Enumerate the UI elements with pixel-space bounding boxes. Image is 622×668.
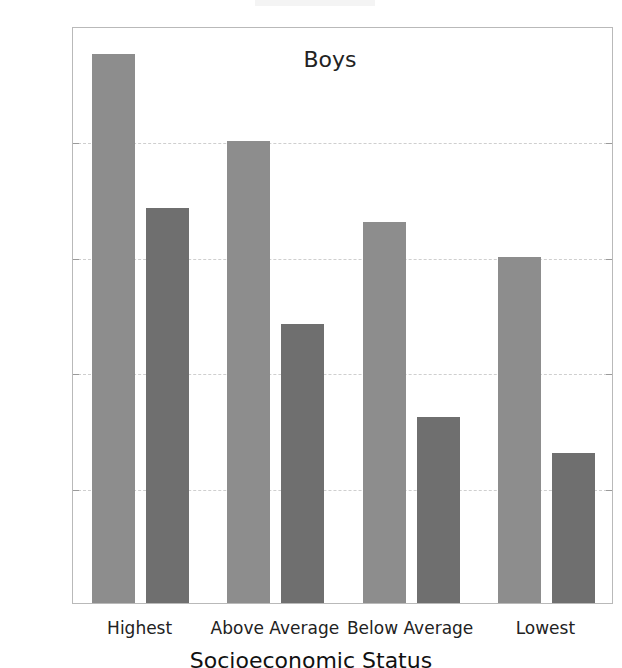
bar-highest-series-1 <box>92 54 135 603</box>
bar-below-average-series-2 <box>417 417 460 603</box>
y-tick-mark <box>73 490 79 491</box>
x-tick-label: Lowest <box>516 618 575 638</box>
y-tick-mark <box>606 143 612 144</box>
y-tick-mark <box>73 143 79 144</box>
bar-chart-figure: Mean IQ Socioeconomic Status Boys 708090… <box>0 0 622 668</box>
y-tick-mark <box>73 374 79 375</box>
x-tick-label: Above Average <box>211 618 340 638</box>
plot-area <box>72 27 613 604</box>
y-tick-mark <box>606 490 612 491</box>
bar-below-average-series-1 <box>363 222 406 603</box>
x-axis-label: Socioeconomic Status <box>0 648 622 668</box>
plot-annotation-boys: Boys <box>303 47 356 72</box>
y-gridline <box>73 143 612 144</box>
bar-above-average-series-2 <box>281 324 324 603</box>
cropped-title-artifact <box>255 0 375 6</box>
bar-highest-series-2 <box>146 208 189 603</box>
bar-lowest-series-1 <box>498 257 541 603</box>
y-tick-mark <box>606 259 612 260</box>
bar-lowest-series-2 <box>552 453 595 603</box>
bar-above-average-series-1 <box>227 141 270 603</box>
y-tick-mark <box>73 259 79 260</box>
x-tick-label: Below Average <box>347 618 473 638</box>
x-tick-label: Highest <box>107 618 172 638</box>
y-tick-mark <box>606 374 612 375</box>
